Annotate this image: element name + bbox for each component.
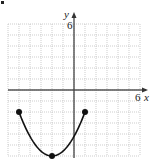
item-bullet <box>1 1 4 4</box>
y-max-tick-label: 6 <box>67 19 73 31</box>
closed-point-dot <box>82 109 88 115</box>
closed-point-dot <box>49 153 55 159</box>
y-axis-arrow-icon <box>72 12 77 18</box>
coordinate-plane: y 6 6 x <box>0 0 152 168</box>
x-max-tick-label: 6 <box>135 91 141 103</box>
closed-point-dot <box>16 109 22 115</box>
x-axis-label: x <box>143 91 149 103</box>
